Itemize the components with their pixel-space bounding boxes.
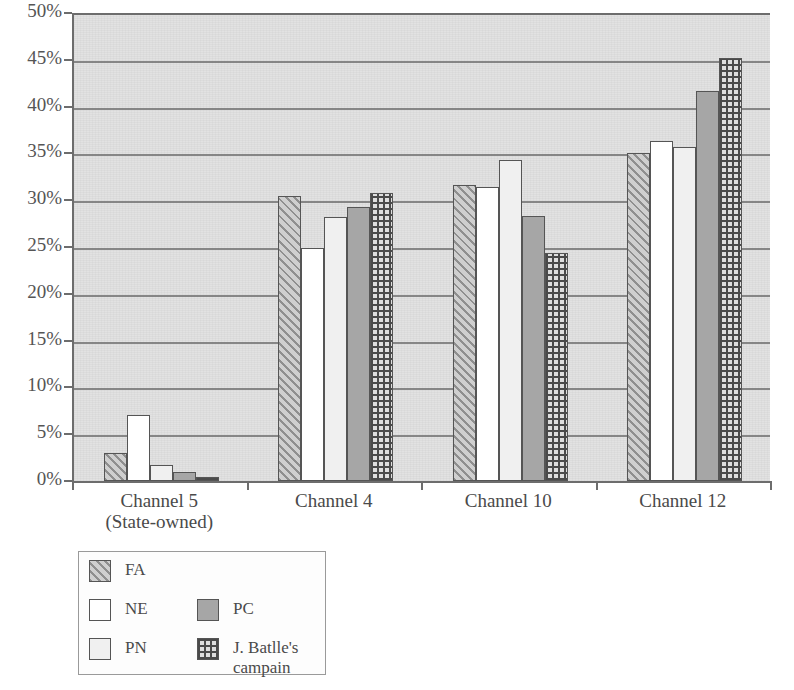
x-axis-group-label-line: Channel 12: [596, 490, 771, 511]
gridline: [74, 108, 770, 110]
y-axis-tick-mark: [64, 152, 72, 154]
y-axis-tick-label: 15%: [4, 328, 62, 350]
bar: [673, 147, 696, 481]
bar: [278, 196, 301, 481]
x-axis-tick-mark: [72, 481, 74, 490]
bar: [476, 187, 499, 481]
bar: [696, 91, 719, 481]
y-axis-tick-mark: [64, 386, 72, 388]
y-axis-tick-label: 25%: [4, 234, 62, 256]
x-axis-group-label-line: (State-owned): [72, 511, 247, 532]
x-axis-group-label-line: Channel 4: [247, 490, 422, 511]
bar: [104, 453, 127, 481]
y-axis-tick-label: 10%: [4, 374, 62, 396]
legend-swatch-icon: [89, 599, 111, 621]
legend-label: PC: [233, 599, 254, 619]
bar: [150, 465, 173, 481]
x-axis-group-label: Channel 5(State-owned): [72, 490, 247, 532]
y-axis-tick-label: 0%: [4, 468, 62, 490]
bar: [324, 217, 347, 481]
bar: [499, 160, 522, 481]
y-axis-tick-mark: [64, 480, 72, 482]
x-axis-group-label: Channel 4: [247, 490, 422, 511]
x-axis-group-label: Channel 12: [596, 490, 771, 511]
y-axis-tick-mark: [64, 433, 72, 435]
bar: [173, 472, 196, 481]
legend-entry[interactable]: FA: [89, 560, 145, 582]
y-axis-tick-label: 35%: [4, 140, 62, 162]
legend-entry[interactable]: PC: [197, 599, 254, 621]
x-axis-tick-mark: [596, 481, 598, 490]
bar: [301, 248, 324, 481]
x-axis-tick-mark: [247, 481, 249, 490]
y-axis-tick-mark: [64, 12, 72, 14]
y-axis-tick-label: 20%: [4, 281, 62, 303]
y-axis-tick-mark: [64, 199, 72, 201]
plot-area: [72, 13, 770, 481]
y-axis-tick-mark: [64, 340, 72, 342]
y-axis-tick-mark: [64, 293, 72, 295]
bar: [719, 58, 742, 481]
bar: [522, 216, 545, 481]
legend-swatch-icon: [197, 638, 219, 660]
y-axis-tick-mark: [64, 59, 72, 61]
bar: [650, 141, 673, 481]
legend-label: FA: [125, 560, 145, 580]
bar: [370, 193, 393, 481]
legend-entry[interactable]: J. Batlle's campain: [197, 638, 298, 678]
x-axis-group-label-line: Channel 10: [421, 490, 596, 511]
bar: [347, 207, 370, 481]
legend-label: J. Batlle's campain: [233, 638, 298, 678]
bar: [627, 153, 650, 481]
y-axis-tick-mark: [64, 246, 72, 248]
y-axis-tick-label: 45%: [4, 47, 62, 69]
legend-label: NE: [125, 599, 148, 619]
legend-swatch-icon: [89, 638, 111, 660]
x-axis-tick-mark: [421, 481, 423, 490]
x-axis-group-label-line: Channel 5: [72, 490, 247, 511]
x-axis-tick-mark: [770, 481, 772, 490]
legend: FANEPNPCJ. Batlle's campain: [78, 551, 326, 675]
y-axis-tick-label: 50%: [4, 0, 62, 22]
legend-swatch-icon: [197, 599, 219, 621]
bar: [545, 253, 568, 481]
y-axis-tick-mark: [64, 106, 72, 108]
legend-label: PN: [125, 638, 147, 658]
y-axis-tick-label: 5%: [4, 421, 62, 443]
bar-chart: 0%5%10%15%20%25%30%35%40%45%50% Channel …: [0, 0, 794, 690]
bar: [453, 185, 476, 481]
legend-entry[interactable]: NE: [89, 599, 148, 621]
y-axis-tick-label: 40%: [4, 94, 62, 116]
gridline: [74, 61, 770, 63]
bar: [127, 415, 150, 481]
x-axis-group-label: Channel 10: [421, 490, 596, 511]
y-axis-tick-label: 30%: [4, 187, 62, 209]
legend-swatch-icon: [89, 560, 111, 582]
legend-entry[interactable]: PN: [89, 638, 147, 660]
